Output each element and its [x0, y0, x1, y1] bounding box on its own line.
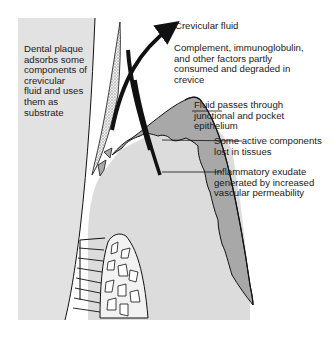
fluid-passes-label: Fluid passes through junctional and pock… — [194, 100, 284, 132]
tissue-fragment — [104, 148, 112, 158]
complement-label: Complement, immunoglobulin, and other fa… — [174, 43, 304, 85]
crevicular-fluid-label: Crevicular fluid — [175, 21, 238, 32]
inflammatory-exudate-label: Inflammatory exudate generated by increa… — [214, 167, 314, 199]
active-components-label: Some active components lost in tissues — [214, 136, 322, 157]
plaque-label: Dental plaque adsorbs some components of… — [24, 44, 87, 118]
